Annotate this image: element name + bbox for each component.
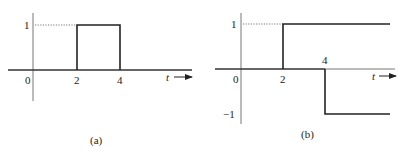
y-tick-minus-1: −1 (223, 108, 235, 120)
caption-a: (a) (90, 134, 103, 147)
figure-canvas: 1 0 2 4 t (a) 1 −1 0 2 4 t (b) (0, 0, 405, 152)
panel-b: 1 −1 0 2 4 t (b) (215, 13, 396, 141)
step-up-signal (283, 24, 390, 69)
x-tick-4: 4 (117, 74, 123, 86)
y-tick-1: 1 (231, 18, 237, 30)
x-tick-0: 0 (233, 73, 239, 85)
rectangular-pulse (77, 25, 120, 70)
y-tick-1: 1 (24, 19, 30, 31)
caption-b: (b) (301, 128, 314, 141)
panel-a: 1 0 2 4 t (a) (8, 13, 192, 147)
x-tick-0: 0 (25, 74, 31, 86)
x-tick-2: 2 (280, 73, 286, 85)
x-tick-2: 2 (74, 74, 80, 86)
t-axis-label: t (372, 70, 376, 82)
t-axis-label: t (166, 71, 170, 83)
x-tick-4: 4 (322, 54, 328, 66)
